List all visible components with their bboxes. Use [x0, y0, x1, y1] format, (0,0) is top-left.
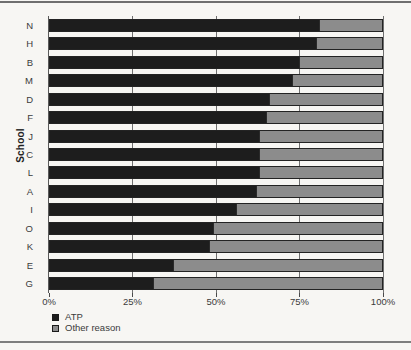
bar-segment-atp-F — [50, 112, 266, 123]
y-axis-label-M: M — [0, 71, 42, 89]
y-axis-label-E: E — [0, 256, 42, 274]
x-axis-label-75%: 75% — [290, 296, 309, 307]
bar-segment-other-O — [213, 223, 382, 234]
plot-area — [49, 16, 383, 293]
bar-segment-atp-L — [50, 167, 259, 178]
bar-segment-atp-K — [50, 241, 209, 252]
bar-row-A — [49, 185, 383, 198]
bar-row-N — [49, 19, 383, 32]
y-axis-label-K: K — [0, 238, 42, 256]
bar-row-F — [49, 111, 383, 124]
bar-segment-other-B — [299, 57, 382, 68]
bar-segment-atp-G — [50, 278, 153, 289]
bar-segment-atp-C — [50, 149, 259, 160]
y-axis-label-H: H — [0, 34, 42, 52]
bar-row-K — [49, 240, 383, 253]
bar-segment-other-E — [173, 260, 382, 271]
bar-row-I — [49, 203, 383, 216]
figure-stacked-bar-chart: School NHBMDFJCLAIOKEG 0%25%50%75%100% A… — [0, 0, 411, 350]
bottom-divider-rule — [0, 341, 411, 343]
x-axis-label-50%: 50% — [206, 296, 225, 307]
x-axis-label-0%: 0% — [42, 296, 56, 307]
bar-row-M — [49, 74, 383, 87]
bar-segment-other-M — [292, 75, 382, 86]
bar-segment-other-F — [266, 112, 382, 123]
y-axis-label-F: F — [0, 108, 42, 126]
bar-segment-other-C — [259, 149, 382, 160]
y-axis-label-C: C — [0, 145, 42, 163]
y-axis-label-G: G — [0, 275, 42, 293]
bar-segment-other-A — [256, 186, 382, 197]
bar-segment-other-I — [236, 204, 382, 215]
legend-swatch-atp — [52, 314, 59, 321]
bar-row-G — [49, 277, 383, 290]
bar-segment-atp-I — [50, 204, 236, 215]
legend-item-atp: ATP — [52, 312, 120, 322]
bar-row-D — [49, 93, 383, 106]
bar-segment-atp-M — [50, 75, 292, 86]
y-axis-label-L: L — [0, 164, 42, 182]
y-axis-label-J: J — [0, 127, 42, 145]
legend-swatch-other — [52, 325, 59, 332]
bar-row-C — [49, 148, 383, 161]
y-axis-label-B: B — [0, 53, 42, 71]
legend: ATP Other reason — [52, 312, 120, 334]
bar-segment-other-H — [316, 38, 382, 49]
bar-segment-atp-A — [50, 186, 256, 197]
bar-row-J — [49, 130, 383, 143]
bar-segment-atp-E — [50, 260, 173, 271]
x-axis-label-100%: 100% — [371, 296, 395, 307]
bar-segment-other-N — [319, 20, 382, 31]
bar-row-B — [49, 56, 383, 69]
bar-segment-other-J — [259, 131, 382, 142]
x-axis-label-25%: 25% — [123, 296, 142, 307]
bar-segment-atp-J — [50, 131, 259, 142]
legend-item-other: Other reason — [52, 323, 120, 333]
y-axis-label-D: D — [0, 90, 42, 108]
legend-label-atp: ATP — [65, 312, 83, 322]
bar-row-E — [49, 259, 383, 272]
bar-segment-atp-D — [50, 94, 269, 105]
bar-segment-atp-O — [50, 223, 213, 234]
bar-segment-atp-H — [50, 38, 316, 49]
bar-segment-atp-N — [50, 20, 319, 31]
bar-row-H — [49, 37, 383, 50]
bar-segment-other-L — [259, 167, 382, 178]
y-axis-label-N: N — [0, 16, 42, 34]
bar-segment-other-K — [209, 241, 382, 252]
legend-label-other: Other reason — [65, 323, 120, 333]
bar-row-L — [49, 166, 383, 179]
bar-segment-atp-B — [50, 57, 299, 68]
y-axis-label-I: I — [0, 201, 42, 219]
y-axis-label-O: O — [0, 219, 42, 237]
bar-row-O — [49, 222, 383, 235]
y-axis-label-A: A — [0, 182, 42, 200]
top-divider-rule — [0, 1, 411, 3]
bar-segment-other-G — [153, 278, 382, 289]
bar-segment-other-D — [269, 94, 382, 105]
